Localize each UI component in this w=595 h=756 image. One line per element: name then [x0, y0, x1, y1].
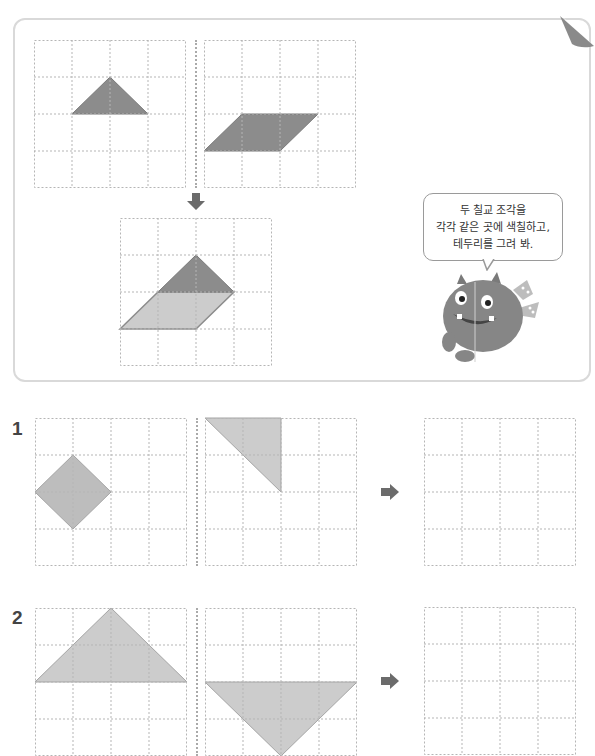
- monster-mascot-icon: [435, 272, 545, 367]
- speech-line-3: 테두리를 그려 봐.: [453, 236, 534, 253]
- speech-line-2: 각각 같은 곳에 색칠하고,: [436, 219, 550, 236]
- problem-1-answer-grid[interactable]: [424, 418, 576, 566]
- example-grid-combined: [120, 218, 272, 366]
- example-grid-piece-b: [204, 40, 356, 188]
- arrow-right-icon: [381, 673, 399, 689]
- page-fold-corner-icon: [560, 16, 595, 50]
- problem-2-grid-piece-b: [205, 608, 357, 756]
- problem-1-grid-piece-b: [205, 418, 357, 566]
- problem-2-grid-piece-a: [35, 608, 187, 756]
- divider-line: [196, 608, 198, 756]
- arrow-down-icon: [187, 193, 205, 211]
- problem-number-2: 2: [12, 607, 23, 629]
- parallelogram-piece: [204, 114, 318, 151]
- problem-2-answer-grid[interactable]: [424, 607, 576, 755]
- example-grid-piece-a: [34, 40, 186, 188]
- problem-number-1: 1: [12, 418, 23, 440]
- speech-line-1: 두 칠교 조각을: [460, 202, 527, 219]
- parallelogram-piece: [120, 292, 234, 329]
- problem-1-grid-piece-a: [35, 418, 187, 566]
- divider-line: [195, 40, 197, 188]
- arrow-right-icon: [381, 484, 399, 500]
- speech-bubble: 두 칠교 조각을 각각 같은 곳에 색칠하고, 테두리를 그려 봐.: [423, 193, 563, 261]
- divider-line: [196, 418, 198, 566]
- speech-bubble-tail: [482, 259, 496, 271]
